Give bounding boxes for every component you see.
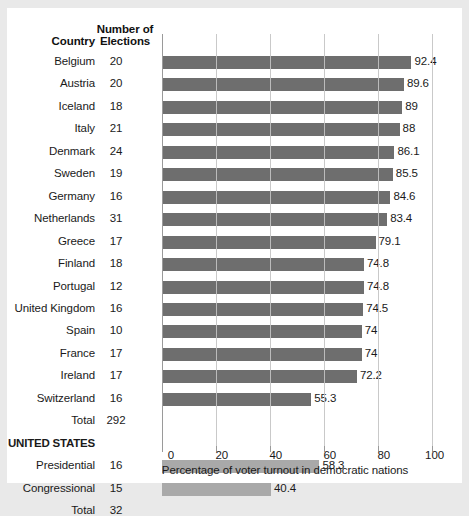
- bar-value-label: 85.5: [396, 167, 418, 179]
- row-elections-count: 17: [95, 347, 137, 359]
- bar: [162, 146, 394, 159]
- row-elections-count: 17: [95, 235, 137, 247]
- chart-x-axis-label: Percentage of voter turnout in democrati…: [95, 464, 469, 476]
- row-label: Portugal: [7, 280, 95, 292]
- row-elections-count: 292: [95, 414, 137, 426]
- x-tick-label-80: 80: [360, 449, 390, 461]
- bar: [162, 258, 364, 271]
- x-tick-label-100: 100: [414, 449, 444, 461]
- row-elections-count: 16: [95, 302, 137, 314]
- row-elections-count: 32: [95, 504, 137, 516]
- row-label: Total: [7, 504, 95, 516]
- bar-value-label: 89: [405, 100, 418, 112]
- row-elections-count: 24: [95, 145, 137, 157]
- row-label: France: [7, 347, 95, 359]
- bar: [162, 281, 364, 294]
- bar: [162, 236, 376, 249]
- bar-value-label: 86.1: [397, 145, 419, 157]
- row-elections-count: 20: [95, 77, 137, 89]
- row-label: Greece: [7, 235, 95, 247]
- row-label: Netherlands: [7, 212, 95, 224]
- row-label: Denmark: [7, 145, 95, 157]
- chart-plot-inner: 92.489.6898886.185.584.683.479.174.874.8…: [155, 8, 462, 483]
- gridline-overlay-0: [162, 34, 163, 446]
- column-header-country: Country: [7, 35, 95, 47]
- row-label: Iceland: [7, 100, 95, 112]
- gridline-overlay-20: [216, 34, 217, 446]
- x-tick-label-20: 20: [198, 449, 228, 461]
- bar: [162, 348, 362, 361]
- row-elections-count: 18: [95, 100, 137, 112]
- gridline-overlay-100: [432, 34, 433, 446]
- row-label: Switzerland: [7, 392, 95, 404]
- row-label: United Kingdom: [7, 302, 95, 314]
- bar-value-label: 74: [365, 347, 378, 359]
- bar: [162, 56, 411, 69]
- row-elections-count: 19: [95, 167, 137, 179]
- bar: [162, 78, 404, 91]
- row-elections-count: 31: [95, 212, 137, 224]
- x-tick-label-60: 60: [306, 449, 336, 461]
- column-header-elections-line2: Elections: [95, 35, 155, 47]
- row-elections-count: 10: [95, 324, 137, 336]
- bar: [162, 303, 363, 316]
- row-label: Finland: [7, 257, 95, 269]
- row-label: UNITED STATES: [7, 437, 95, 449]
- row-elections-count: 21: [95, 122, 137, 134]
- chart-row-label-table: Country Number of Elections Belgium20Aus…: [7, 8, 155, 483]
- bar-value-label: 88: [403, 122, 416, 134]
- row-label: Ireland: [7, 369, 95, 381]
- chart-figure: Country Number of Elections Belgium20Aus…: [7, 8, 462, 483]
- row-elections-count: 17: [95, 369, 137, 381]
- row-elections-count: 16: [95, 190, 137, 202]
- row-label: Germany: [7, 190, 95, 202]
- row-elections-count: 16: [95, 392, 137, 404]
- chart-plot-area: 92.489.6898886.185.584.683.479.174.874.8…: [155, 8, 462, 483]
- gridline-overlay-40: [270, 34, 271, 446]
- row-elections-count: 12: [95, 280, 137, 292]
- bar: [162, 213, 387, 226]
- bar: [162, 123, 400, 136]
- row-label: Spain: [7, 324, 95, 336]
- bar: [162, 325, 362, 338]
- column-header-elections-line1: Number of: [95, 23, 155, 35]
- bar: [162, 101, 402, 114]
- bar: [162, 191, 390, 204]
- row-label: Presidential: [7, 459, 95, 471]
- row-label: Belgium: [7, 55, 95, 67]
- x-tick-label-0: 0: [144, 449, 174, 461]
- row-label: Congressional: [7, 482, 95, 494]
- row-elections-count: 20: [95, 55, 137, 67]
- bar-value-label: 89.6: [407, 77, 429, 89]
- bar-value-label: 74: [365, 324, 378, 336]
- bar: [162, 370, 357, 383]
- bar-value-label: 79.1: [379, 235, 401, 247]
- bar-value-label: 40.4: [274, 482, 296, 494]
- row-elections-count: 15: [95, 482, 137, 494]
- bar: [162, 483, 271, 496]
- bar-value-label: 84.6: [393, 190, 415, 202]
- row-label: Total: [7, 414, 95, 426]
- bar-value-label: 55.3: [314, 392, 336, 404]
- gridline-overlay-80: [378, 34, 379, 446]
- row-label: Austria: [7, 77, 95, 89]
- row-label: Sweden: [7, 167, 95, 179]
- bar: [162, 168, 393, 181]
- gridline-overlay-60: [324, 34, 325, 446]
- bar: [162, 393, 311, 406]
- row-label: Italy: [7, 122, 95, 134]
- bar-value-label: 83.4: [390, 212, 412, 224]
- x-tick-label-40: 40: [252, 449, 282, 461]
- bar-value-label: 92.4: [414, 55, 436, 67]
- row-elections-count: 18: [95, 257, 137, 269]
